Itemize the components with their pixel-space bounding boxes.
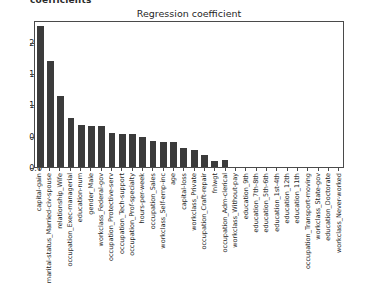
x-label-slot: occupation_Adm-clerical <box>220 173 230 291</box>
x-tick-mark <box>245 168 246 171</box>
x-tick-label: occupation_Craft-repair <box>201 173 208 249</box>
x-tick-label: marital-status_Married-civ-spouse <box>46 173 53 283</box>
x-tick-slot <box>158 168 168 172</box>
x-label-slot: education-num <box>75 173 85 291</box>
bar <box>109 133 116 167</box>
bar <box>98 126 105 167</box>
bar-slot <box>210 22 220 167</box>
bar <box>129 134 136 167</box>
bar-slot <box>281 22 291 167</box>
x-tick-mark <box>121 168 122 171</box>
bar-slot <box>86 22 96 167</box>
bar-slot <box>199 22 209 167</box>
x-label-slot: workclass_Federal-gov <box>96 173 106 291</box>
x-tick-mark <box>297 168 298 171</box>
x-label-slot: education_5th-6th <box>261 173 271 291</box>
bar-slot <box>240 22 250 167</box>
bar <box>150 141 157 167</box>
x-tick-mark <box>152 168 153 171</box>
x-tick-label: gender_Male <box>87 173 94 215</box>
bar-slot <box>56 22 66 167</box>
x-tick-slot <box>230 168 240 172</box>
x-tick-mark <box>80 168 81 171</box>
x-label-slot: capital-loss <box>179 173 189 291</box>
x-tick-mark <box>287 168 288 171</box>
x-tick-label: education_12th <box>284 173 291 223</box>
x-tick-label: occupation_Adm-clerical <box>222 173 229 252</box>
x-label-slot: marital-status_Married-civ-spouse <box>44 173 54 291</box>
x-label-slot: occupation_Sales <box>148 173 158 291</box>
x-tick-mark <box>183 168 184 171</box>
x-tick-mark <box>173 168 174 171</box>
x-tick-label: workclass_State-gov <box>315 173 322 240</box>
x-label-slot: occupation_Tech-support <box>117 173 127 291</box>
bar-slot <box>251 22 261 167</box>
x-tick-slot <box>148 168 158 172</box>
x-tick-slot <box>34 168 44 172</box>
x-tick-label: education_9th <box>242 173 249 219</box>
x-tick-slot <box>55 168 65 172</box>
x-tick-slot <box>303 168 313 172</box>
chart-title: Regression coefficient <box>34 8 344 19</box>
x-tick-mark <box>214 168 215 171</box>
bar-slot <box>45 22 55 167</box>
x-tick-slot <box>86 168 96 172</box>
x-tick-label: education_7th-8th <box>253 173 260 232</box>
x-label-slot: occupation_Craft-repair <box>199 173 209 291</box>
x-tick-slot <box>96 168 106 172</box>
x-tick-label: occupation_Protective-serv <box>108 173 115 261</box>
bar-slot <box>66 22 76 167</box>
x-tick-label: workclass_Never-worked <box>335 173 342 253</box>
x-tick-mark <box>318 168 319 171</box>
bar <box>160 142 167 167</box>
x-tick-slot <box>220 168 230 172</box>
x-label-slot: education_1st-4th <box>272 173 282 291</box>
x-tick-slot <box>44 168 54 172</box>
x-tick-slot <box>251 168 261 172</box>
bar <box>47 61 54 167</box>
bar-slot <box>230 22 240 167</box>
x-tick-slot <box>75 168 85 172</box>
x-tick-slot <box>117 168 127 172</box>
x-label-slot: workclass_Never-worked <box>334 173 344 291</box>
bar-slot <box>271 22 281 167</box>
x-tick-mark <box>235 168 236 171</box>
x-tick-mark <box>276 168 277 171</box>
x-tick-mark <box>194 168 195 171</box>
x-label-slot: age <box>168 173 178 291</box>
x-tick-slot <box>137 168 147 172</box>
x-tick-slot <box>179 168 189 172</box>
x-tick-label: education-num <box>77 173 84 222</box>
x-tick-slot <box>241 168 251 172</box>
x-label-slot: occupation_Protective-serv <box>106 173 116 291</box>
x-label-slot: workclass_Without-pay <box>230 173 240 291</box>
x-tick-label: capital-loss <box>180 173 187 210</box>
bar-slot <box>35 22 45 167</box>
x-tick-slot <box>272 168 282 172</box>
bar <box>88 126 95 167</box>
bar-slot <box>76 22 86 167</box>
x-tick-mark <box>338 168 339 171</box>
x-tick-slot <box>106 168 116 172</box>
x-label-slot: education_12th <box>282 173 292 291</box>
bar-slot <box>179 22 189 167</box>
bar-slot <box>261 22 271 167</box>
x-label-slot: workclass_State-gov <box>313 173 323 291</box>
x-tick-label: workclass_Federal-gov <box>98 173 105 246</box>
x-label-slot: workclass_Private <box>189 173 199 291</box>
x-label-slot: fnlwgt <box>210 173 220 291</box>
x-tick-label: age <box>170 173 177 185</box>
x-label-slot: education_7th-8th <box>251 173 261 291</box>
bar <box>222 160 229 167</box>
bar <box>139 137 146 167</box>
x-tick-slot <box>313 168 323 172</box>
bar-slot <box>312 22 322 167</box>
x-tick-mark <box>132 168 133 171</box>
x-label-slot: occupation_Prof-specialty <box>127 173 137 291</box>
x-label-slot: education_9th <box>241 173 251 291</box>
x-tick-slot <box>334 168 344 172</box>
bars-layer <box>35 22 343 167</box>
x-tick-label: workclass_Private <box>191 173 198 231</box>
x-label-slot: education_Doctorate <box>323 173 333 291</box>
bar-slot <box>148 22 158 167</box>
